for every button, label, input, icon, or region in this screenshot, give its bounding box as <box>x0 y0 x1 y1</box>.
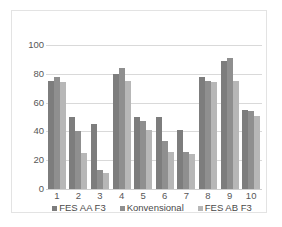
y-axis-tick-label: 40 <box>14 126 44 135</box>
bar-group <box>68 45 90 189</box>
legend-item[interactable]: FES AB F3 <box>198 203 252 213</box>
bar-group <box>197 45 219 189</box>
y-axis-tick-label: 60 <box>14 98 44 107</box>
legend-label: Konvensional <box>127 203 184 213</box>
legend-item[interactable]: Konvensional <box>120 203 184 213</box>
chart-container: 020406080100 12345678910 FES AA F3Konven… <box>11 10 267 213</box>
legend-swatch-icon <box>198 206 203 211</box>
legend-label: FES AB F3 <box>205 203 252 213</box>
bar-group <box>154 45 176 189</box>
bar <box>211 82 217 189</box>
y-axis-tick-label: 20 <box>14 155 44 164</box>
bar-group <box>219 45 241 189</box>
bar <box>233 81 239 189</box>
legend-swatch-icon <box>52 206 57 211</box>
bar <box>146 130 152 189</box>
y-axis: 020406080100 <box>12 45 44 189</box>
bar-group <box>111 45 133 189</box>
bar <box>168 152 174 189</box>
y-axis-tick-label: 0 <box>14 184 44 193</box>
y-axis-tick-label: 80 <box>14 69 44 78</box>
bar <box>125 81 131 189</box>
bar <box>189 154 195 189</box>
chart-legend: FES AA F3KonvensionalFES AB F3 <box>36 201 268 215</box>
y-axis-tick-label: 100 <box>14 40 44 49</box>
bar-group <box>46 45 68 189</box>
bar <box>254 116 260 189</box>
legend-label: FES AA F3 <box>59 203 105 213</box>
legend-swatch-icon <box>120 206 125 211</box>
bar <box>60 82 66 189</box>
bars-layer <box>46 45 262 189</box>
bar-group <box>240 45 262 189</box>
bar <box>103 173 109 189</box>
bar-group <box>176 45 198 189</box>
bar-group <box>89 45 111 189</box>
bar-group <box>132 45 154 189</box>
plot-area <box>46 45 262 189</box>
bar <box>81 153 87 189</box>
legend-item[interactable]: FES AA F3 <box>52 203 105 213</box>
